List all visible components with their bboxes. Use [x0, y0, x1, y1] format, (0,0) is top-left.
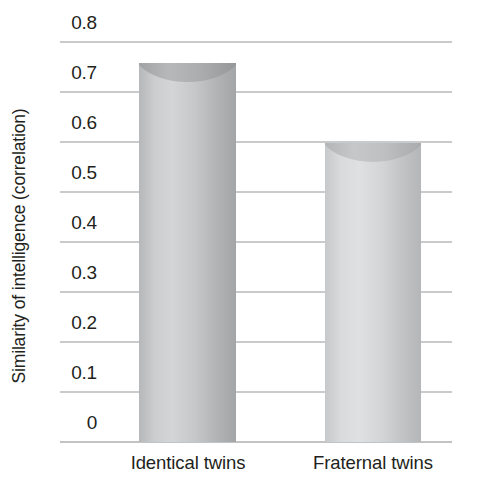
y-tick-label-0.4: 0.4	[37, 212, 97, 234]
bar-fraternal-twins	[325, 143, 421, 442]
y-tick-label-0.7: 0.7	[37, 62, 97, 84]
gridline-0.8	[60, 41, 452, 43]
y-tick-label-0.8: 0.8	[37, 12, 97, 34]
gridline-0.7	[60, 91, 452, 93]
x-axis-label-fraternal-twins: Fraternal twins	[295, 452, 451, 474]
y-tick-label-0.3: 0.3	[37, 262, 97, 284]
y-tick-label-0.1: 0.1	[37, 362, 97, 384]
bar-identical-twins-body	[139, 63, 236, 442]
y-tick-label-0.2: 0.2	[37, 312, 97, 334]
bar-chart: Similarity of intelligence (correlation)…	[0, 0, 480, 492]
bar-fraternal-twins-body	[325, 143, 421, 442]
y-tick-label-0: 0	[37, 412, 97, 434]
plot-area: 0.8 0.7 0.6 0.5 0.4 0.3 0.2 0.1 0	[0, 0, 480, 492]
x-axis-label-identical-twins: Identical twins	[110, 452, 266, 474]
y-tick-label-0.6: 0.6	[37, 112, 97, 134]
bar-identical-twins	[139, 63, 236, 442]
y-tick-label-0.5: 0.5	[37, 162, 97, 184]
